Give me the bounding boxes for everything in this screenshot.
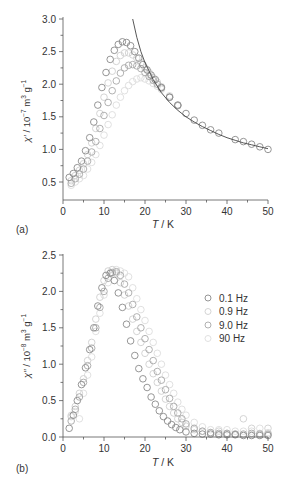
data-point (111, 47, 118, 54)
y-tick-label: 2.5 (42, 46, 56, 57)
y-tick-label: 1.5 (42, 322, 56, 333)
figure: 0.51.01.52.02.53.0 01020304050 T / K χ′ … (0, 0, 291, 488)
data-point (125, 290, 132, 297)
data-point (175, 399, 182, 406)
legend-item: 90 Hz (205, 333, 245, 344)
data-point (144, 384, 151, 391)
y-tick-label: 0.0 (42, 432, 56, 443)
data-point (134, 295, 141, 302)
legend-marker-icon (205, 322, 211, 328)
data-point (207, 431, 214, 438)
data-point (123, 321, 130, 328)
data-point (125, 82, 132, 89)
legend-label: 0.1 Hz (219, 293, 248, 304)
panel-a-x-label: T / K (152, 218, 174, 230)
data-point (101, 132, 108, 139)
panel-a: 0.51.01.52.02.53.0 01020304050 T / K χ′ … (16, 14, 274, 236)
data-point (146, 346, 153, 353)
legend-marker-icon (205, 295, 211, 301)
legend-item: 0.1 Hz (205, 293, 248, 304)
panel-b-x-label: T / K (152, 456, 174, 468)
x-tick-label: 50 (262, 206, 274, 217)
legend-item: 0.9 Hz (205, 306, 248, 317)
x-tick-label: 30 (180, 443, 192, 454)
data-point (95, 102, 102, 109)
data-point (170, 403, 177, 410)
data-point (265, 146, 272, 153)
data-point (142, 350, 149, 357)
x-tick-label: 20 (139, 206, 151, 217)
data-point (117, 279, 124, 286)
data-point (129, 316, 136, 323)
data-point (105, 99, 112, 106)
data-point (119, 304, 126, 311)
data-point (125, 50, 132, 57)
data-point (150, 357, 157, 364)
data-point (160, 413, 167, 420)
data-point (86, 346, 93, 353)
data-point (113, 58, 120, 65)
data-point (97, 294, 104, 301)
data-point (148, 394, 155, 401)
y-tick-label: 2.0 (42, 79, 56, 90)
data-point (99, 84, 106, 91)
data-point (142, 335, 149, 342)
data-point (129, 301, 136, 308)
data-point (129, 61, 136, 68)
data-point (127, 338, 134, 345)
legend-marker-icon (205, 336, 211, 342)
series-0-9-Hz (68, 50, 181, 184)
data-point (162, 386, 169, 393)
x-tick-label: 20 (139, 443, 151, 454)
data-point (105, 121, 112, 128)
data-point (179, 406, 186, 413)
data-point (150, 370, 157, 377)
panel-a-x-axis: 01020304050 (60, 200, 274, 217)
data-point (154, 368, 161, 375)
data-point (95, 303, 102, 310)
data-point (134, 314, 141, 321)
y-tick-label: 1.0 (42, 144, 56, 155)
data-point (117, 94, 124, 101)
x-tick-label: 30 (180, 206, 192, 217)
data-point (146, 361, 153, 368)
data-point (66, 425, 73, 432)
data-point (134, 328, 141, 335)
data-point (88, 159, 95, 166)
panel-b-y-label: χ″ / 10−8 m3 g−1 (20, 314, 32, 379)
data-point (138, 339, 145, 346)
data-point (97, 125, 104, 132)
data-point (140, 376, 147, 383)
data-point (138, 306, 145, 313)
panel-a-y-axis: 0.51.01.52.02.53.0 (42, 14, 63, 201)
data-point (84, 372, 91, 379)
data-point (121, 292, 128, 299)
data-point (105, 80, 112, 87)
series-90-Hz (68, 74, 181, 188)
data-point (158, 388, 165, 395)
data-point (136, 365, 143, 372)
data-point (88, 354, 95, 361)
data-point (183, 110, 190, 117)
data-point (154, 379, 161, 386)
y-tick-label: 3.0 (42, 14, 56, 25)
data-point (91, 119, 98, 126)
data-point (109, 87, 116, 94)
data-point (158, 361, 165, 368)
data-point (150, 339, 157, 346)
legend-label: 0.9 Hz (219, 306, 248, 317)
x-tick-label: 10 (98, 443, 110, 454)
x-tick-label: 40 (221, 443, 233, 454)
data-point (177, 426, 184, 433)
data-point (121, 270, 128, 277)
legend: 0.1 Hz0.9 Hz9.0 Hz90 Hz (205, 293, 248, 345)
data-point (76, 416, 83, 423)
data-point (158, 377, 165, 384)
y-tick-label: 1.5 (42, 111, 56, 122)
data-point (142, 317, 149, 324)
panel-b: 0.00.51.01.52.02.5 01020304050 T / K χ″ … (16, 250, 274, 475)
data-point (97, 142, 104, 149)
data-point (164, 418, 171, 425)
data-point (125, 303, 132, 310)
legend-label: 90 Hz (219, 333, 245, 344)
